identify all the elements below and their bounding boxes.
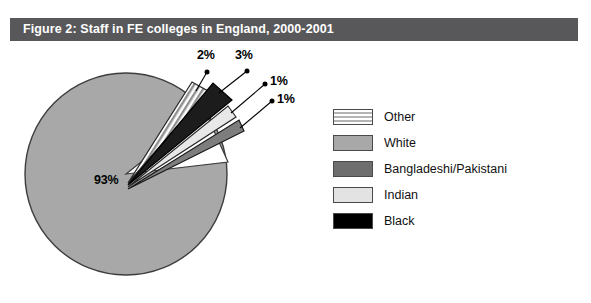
legend-swatch-indian xyxy=(333,187,373,203)
pie-chart-area: 93% 2% 3% 1% 1% Other White Bangladeshi/… xyxy=(0,44,591,303)
leader-dot-bangladeshi xyxy=(245,69,250,74)
legend-swatch-other xyxy=(333,109,373,125)
legend-item-bangladeshi-pakistani: Bangladeshi/Pakistani xyxy=(333,156,507,182)
data-label-indian: 1% xyxy=(270,74,288,88)
leader-line-black xyxy=(240,101,272,128)
data-label-black: 1% xyxy=(277,92,295,106)
legend-label-bangladeshi-pakistani: Bangladeshi/Pakistani xyxy=(384,162,507,176)
data-label-bangladeshi-pakistani: 3% xyxy=(235,48,253,62)
figure-title: Figure 2: Staff in FE colleges in Englan… xyxy=(23,18,334,41)
leader-dot-indian xyxy=(263,82,268,87)
leader-dot-other xyxy=(205,70,210,75)
legend-item-indian: Indian xyxy=(333,182,507,208)
leader-line-bangladeshi xyxy=(219,71,247,93)
legend-label-white: White xyxy=(384,136,416,150)
legend-label-other: Other xyxy=(384,110,415,124)
data-label-white: 93% xyxy=(94,173,118,187)
legend-swatch-black xyxy=(333,213,373,229)
legend-label-indian: Indian xyxy=(384,188,418,202)
legend-swatch-bangladeshi-pakistani xyxy=(333,161,373,177)
legend-item-other: Other xyxy=(333,104,507,130)
data-label-other: 2% xyxy=(197,48,215,62)
legend-label-black: Black xyxy=(384,214,415,228)
figure-container: Figure 2: Staff in FE colleges in Englan… xyxy=(0,0,591,303)
leader-line-indian xyxy=(231,84,265,113)
legend-item-black: Black xyxy=(333,208,507,234)
legend-item-white: White xyxy=(333,130,507,156)
figure-title-bar: Figure 2: Staff in FE colleges in Englan… xyxy=(10,18,578,41)
scan-artifact-text xyxy=(0,0,591,9)
legend-swatch-white xyxy=(333,135,373,151)
chart-legend: Other White Bangladeshi/Pakistani Indian… xyxy=(333,104,507,234)
leader-dot-black xyxy=(270,99,275,104)
